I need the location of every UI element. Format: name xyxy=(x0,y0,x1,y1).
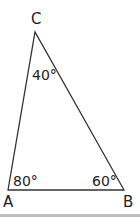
vertex-label-a: A xyxy=(3,195,13,210)
bottom-divider xyxy=(0,214,140,217)
angle-label-a: 80° xyxy=(13,174,38,188)
vertex-label-c: C xyxy=(31,12,41,27)
vertex-label-b: B xyxy=(123,195,133,210)
triangle-abc xyxy=(8,32,124,190)
angle-label-b: 60° xyxy=(92,174,117,188)
angle-label-c: 40° xyxy=(32,68,57,82)
